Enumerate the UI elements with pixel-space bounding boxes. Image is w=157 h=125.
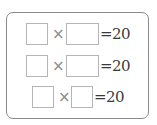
multiply-sign: ×	[52, 25, 65, 43]
equation-row-1: × =20	[0, 23, 157, 46]
equals-result: =20	[100, 56, 130, 76]
blank-box-right[interactable]	[66, 55, 99, 77]
blank-box-left[interactable]	[26, 55, 48, 77]
equals-result: =20	[94, 87, 124, 107]
equation-row-2: × =20	[0, 55, 157, 78]
multiply-sign: ×	[58, 88, 71, 106]
multiply-sign: ×	[52, 57, 65, 75]
blank-box-left[interactable]	[32, 86, 54, 108]
equation-row-3: × =20	[0, 86, 157, 109]
equals-result: =20	[100, 24, 130, 44]
blank-box-right[interactable]	[71, 86, 93, 108]
blank-box-right[interactable]	[66, 23, 99, 45]
blank-box-left[interactable]	[26, 23, 48, 45]
